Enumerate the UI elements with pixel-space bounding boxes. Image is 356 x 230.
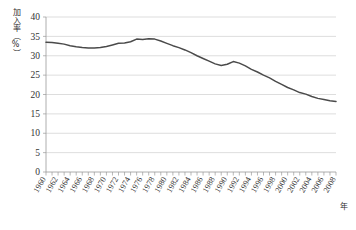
x-tick-labels: 1960196219641966196819701972197419761978… — [32, 176, 338, 195]
y-tick-label: 10 — [31, 128, 41, 138]
y-tick-label: 15 — [31, 109, 41, 119]
x-axis — [46, 172, 336, 176]
series-line-membership-rate — [46, 39, 336, 102]
y-tick-label: 5 — [35, 148, 40, 158]
gridlines — [46, 17, 336, 153]
y-tick-labels: 0510152025303540 — [31, 12, 41, 177]
y-tick-label: 30 — [31, 51, 41, 61]
line-chart-plot: 0510152025303540 19601962196419661968197… — [0, 0, 356, 230]
data-series-membership-rate — [46, 39, 336, 102]
y-tick-label: 40 — [31, 12, 41, 22]
chart-container: 加入率（%） 年 0510152025303540 19601962196419… — [0, 0, 356, 230]
y-tick-label: 20 — [31, 90, 41, 100]
y-tick-label: 35 — [31, 32, 41, 42]
x-tick-label: 2008 — [322, 176, 338, 195]
y-tick-label: 25 — [31, 70, 41, 80]
y-axis — [43, 17, 46, 172]
